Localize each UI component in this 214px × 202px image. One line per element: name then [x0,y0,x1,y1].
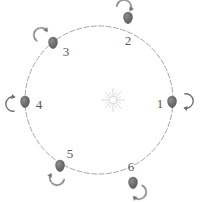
position-label-3: 3 [63,44,70,59]
orbit-path-group [25,26,173,174]
rotation-arrow-5 [45,172,65,187]
orbit-position-3: 3 [31,23,69,59]
orbit-position-4: 4 [6,94,43,112]
orbit-body-6 [128,177,138,189]
orbit-positions-group: 123456 [6,0,193,202]
position-label-6: 6 [128,159,135,174]
orbit-body-1 [167,96,177,108]
rotation-arrow-1 [183,94,193,111]
rotation-arrow-4 [6,94,16,111]
orbit-body-3 [48,37,58,49]
rotation-arrow-2 [116,0,135,12]
sun-icon [102,89,125,112]
rotation-arrow-3 [31,23,50,42]
diagram-canvas: 123456 [0,0,214,202]
orbit-body-4 [20,96,30,108]
orbit-position-5: 5 [45,146,73,187]
position-label-1: 1 [157,96,164,111]
orbit-position-2: 2 [116,0,135,48]
orbit-path [25,26,173,174]
orbit-body-5 [55,160,65,172]
position-label-4: 4 [36,97,43,112]
orbit-position-1: 1 [157,94,193,111]
orbit-diagram-figure: 123456 [0,0,214,202]
position-label-5: 5 [67,146,74,161]
orbit-position-6: 6 [128,159,149,202]
orbit-body-2 [123,12,133,24]
position-label-2: 2 [125,33,132,48]
